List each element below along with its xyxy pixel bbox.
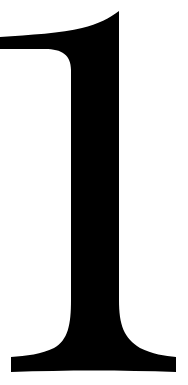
numeral-one-shape — [0, 0, 188, 385]
